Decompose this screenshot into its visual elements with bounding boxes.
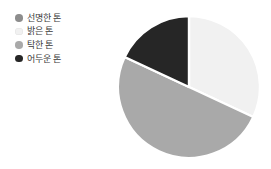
pie-slice-group bbox=[118, 16, 260, 158]
legend-item-bright-tone[interactable]: 밝은 톤 bbox=[15, 25, 107, 39]
filled-circle-icon bbox=[15, 28, 23, 36]
legend-item-label: 밝은 톤 bbox=[27, 26, 53, 36]
filled-circle-icon bbox=[15, 14, 23, 22]
pie-plot-area bbox=[117, 13, 261, 161]
pie-svg bbox=[117, 13, 261, 161]
legend-item-dark-tone[interactable]: 어두운 톤 bbox=[15, 52, 107, 66]
legend-item-vivid-tone[interactable]: 선명한 톤 bbox=[15, 11, 107, 25]
legend-item-label: 어두운 톤 bbox=[27, 54, 61, 64]
filled-circle-icon bbox=[15, 41, 23, 49]
legend-item-label: 탁한 톤 bbox=[27, 40, 53, 50]
legend-item-dull-tone[interactable]: 탁한 톤 bbox=[15, 38, 107, 52]
pie-chart-figure: 선명한 톤 밝은 톤 탁한 톤 어두운 톤 bbox=[0, 0, 271, 169]
legend-item-label: 선명한 톤 bbox=[27, 13, 61, 23]
filled-circle-icon bbox=[15, 55, 23, 63]
chart-legend: 선명한 톤 밝은 톤 탁한 톤 어두운 톤 bbox=[15, 11, 107, 65]
